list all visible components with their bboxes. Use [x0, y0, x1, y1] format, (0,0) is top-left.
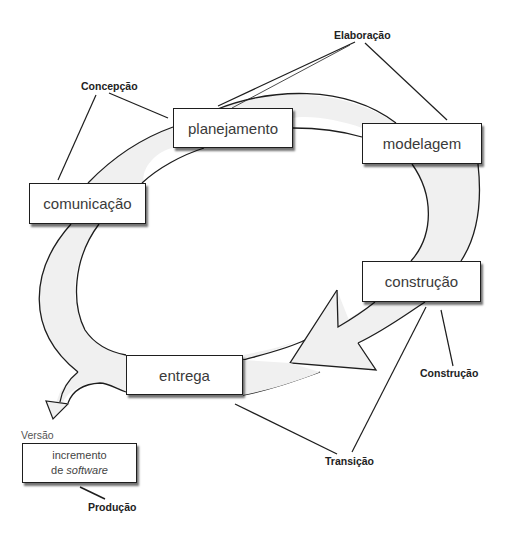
activity-label: entrega [159, 367, 210, 384]
phase-label-transicao: Transição [325, 455, 374, 467]
release-arrowhead [46, 401, 68, 419]
phase-label-elaboracao: Elaboração [334, 29, 391, 41]
release-label-versao: Versão [21, 429, 54, 441]
activity-label: planejamento [188, 120, 278, 137]
activity-construcao: construção [362, 261, 481, 302]
activity-label: construção [385, 273, 458, 290]
phase-label-producao: Produção [88, 501, 136, 513]
activity-planejamento: planejamento [173, 108, 293, 148]
activity-label: comunicação [43, 195, 131, 212]
increment-line2: de software [51, 463, 108, 478]
activity-modelagem: modelagem [362, 123, 482, 164]
band-comunicacao-planejamento [88, 127, 173, 183]
phase-label-construcao: Construção [420, 367, 478, 379]
phase-label-concepcao: Concepção [81, 80, 138, 92]
activity-comunicacao: comunicação [29, 183, 146, 224]
software-increment-box: incremento de software [22, 443, 137, 483]
increment-line1: incremento [52, 448, 106, 463]
activity-label: modelagem [383, 135, 461, 152]
activity-entrega: entrega [126, 355, 243, 395]
